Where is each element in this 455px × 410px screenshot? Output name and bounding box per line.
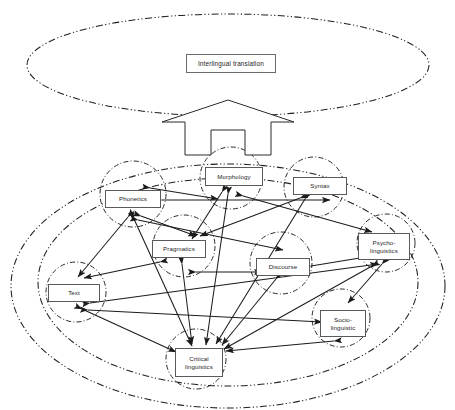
node-text[interactable]: Text — [48, 284, 100, 302]
edge-sociolinguistic-criticallinguistics — [226, 341, 334, 351]
node-pragmatics-label: Pragmatics — [163, 245, 195, 253]
edge-text-psycholinguistics — [90, 264, 378, 303]
edge-pragmatics-text — [84, 262, 160, 278]
edge-morphology-criticallinguistics — [206, 194, 228, 345]
edge-phonetics-criticallinguistics — [134, 219, 192, 346]
node-psycholinguistics-label: Psycho- linguistics — [370, 239, 398, 255]
node-sociolinguistic[interactable]: Socio- linguistic — [320, 310, 366, 337]
node-discourse-label: Discourse — [269, 263, 297, 271]
edge-morphology-psycholinguistics — [243, 196, 372, 232]
edge-text-sociolinguistic — [88, 310, 322, 322]
diagram-canvas: Interlingual translation Phonetics Morph… — [0, 0, 455, 410]
edge-morphology-pragmatics — [192, 192, 222, 239]
edge-text-criticallinguistics — [82, 309, 176, 352]
node-syntax-label: Syntax — [310, 182, 330, 190]
interlingual-translation-label: Interlingual translation — [198, 60, 264, 67]
edge-phonetics-text — [78, 217, 128, 277]
node-criticallinguistics-label: Critical linguistics — [185, 355, 213, 371]
linguistics-inner-ellipse — [38, 178, 418, 386]
node-psycholinguistics[interactable]: Psycho- linguistics — [358, 233, 410, 260]
node-pragmatics[interactable]: Pragmatics — [152, 240, 206, 258]
node-syntax[interactable]: Syntax — [293, 177, 347, 195]
interlingual-translation-box[interactable]: Interlingual translation — [186, 54, 276, 73]
node-morphology[interactable]: Morphology — [205, 167, 263, 186]
node-discourse[interactable]: Discourse — [256, 258, 310, 276]
node-text-label: Text — [68, 289, 80, 297]
node-sociolinguistic-label: Socio- linguistic — [331, 316, 356, 332]
node-phonetics[interactable]: Phonetics — [105, 190, 161, 208]
node-morphology-label: Morphology — [217, 173, 250, 181]
node-criticallinguistics[interactable]: Critical linguistics — [175, 348, 223, 377]
node-phonetics-label: Phonetics — [119, 195, 147, 203]
